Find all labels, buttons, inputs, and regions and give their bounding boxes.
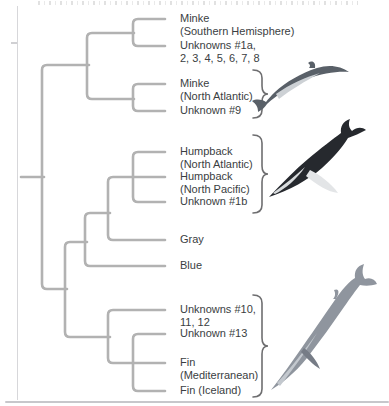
taxon-name-line1: Minke [180, 77, 253, 90]
taxon-name-line1: Minke [180, 12, 294, 25]
taxon-name-line1: Blue [180, 259, 202, 272]
taxon-label: Unknown #9 [180, 104, 241, 117]
tree-branch-minke-na-bracket [133, 84, 165, 111]
taxon-name-line1: Humpback [180, 170, 250, 183]
group-braces [253, 70, 268, 397]
taxon-label: Unknown #13 [180, 327, 247, 340]
taxon-label: Humpback(North Pacific) [180, 170, 250, 196]
minke-whale-illustration [252, 62, 349, 112]
tree-branches [21, 19, 165, 391]
taxon-label: Fin (Iceland) [180, 384, 241, 397]
taxon-label: Minke(Southern Hemisphere) [180, 12, 294, 38]
brace-minke-na-unknown9-group [253, 70, 268, 118]
humpback-whale-illustration [269, 119, 366, 197]
taxon-label: Humpback(North Atlantic) [180, 145, 253, 171]
taxon-name-line2: (Southern Hemisphere) [180, 25, 294, 38]
taxon-name-line1: Gray [180, 233, 204, 246]
taxon-label: Fin(Mediterranean) [180, 356, 258, 382]
taxon-label: Unknowns #1a,2, 3, 4, 5, 6, 7, 8 [180, 39, 260, 65]
taxon-name-line1: Unknown #1b [180, 195, 247, 208]
taxon-label: Unknowns #10,11, 12 [180, 303, 256, 329]
taxon-name-line1: Unknowns #1a, [180, 39, 260, 52]
phylogenetic-tree-figure: Minke(Southern Hemisphere)Unknowns #1a,2… [0, 0, 389, 406]
taxon-name-line1: Unknown #9 [180, 104, 241, 117]
taxon-label: Blue [180, 259, 202, 272]
brace-humpback-group [253, 135, 268, 213]
taxon-name-line1: Humpback [180, 145, 253, 158]
taxon-name-line2: (Mediterranean) [180, 369, 258, 382]
taxon-name-line1: Unknowns #10, [180, 303, 256, 316]
taxon-name-line2: 2, 3, 4, 5, 6, 7, 8 [180, 52, 260, 65]
taxon-label: Minke(North Atlantic) [180, 77, 253, 103]
taxon-name-line2: (North Atlantic) [180, 90, 253, 103]
tree-branch-humpback-gray-node [108, 177, 165, 240]
tree-branch-minke-south-bracket [133, 19, 165, 46]
tree-branch-minke-superclade [87, 33, 134, 99]
taxon-name-line1: Unknown #13 [180, 327, 247, 340]
tree-branch-fin-clade-node [108, 310, 165, 363]
tree-branch-lower-spine [65, 242, 110, 337]
fin-whale-illustration [271, 264, 377, 390]
taxon-name-line1: Fin (Iceland) [180, 384, 241, 397]
taxon-name-line1: Fin [180, 356, 258, 369]
taxon-label: Gray [180, 233, 204, 246]
taxon-label: Unknown #1b [180, 195, 247, 208]
